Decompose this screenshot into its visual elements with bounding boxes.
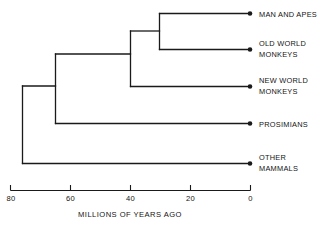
axis-title: MILLIONS OF YEARS AGO — [78, 210, 182, 219]
axis-tick-label-40: 40 — [126, 194, 135, 203]
axis-tick-label-20: 20 — [186, 194, 195, 203]
tip-dot-other-mammals — [248, 161, 253, 166]
tip-dot-prosimians — [248, 121, 253, 126]
axis-tick-label-0: 0 — [248, 194, 252, 203]
tip-dot-new-world-monkeys — [248, 84, 253, 89]
tip-label-new-world-line2: MONKEYS — [259, 87, 298, 96]
tip-label-old-world-line1: OLD WORLD — [259, 39, 306, 48]
tip-dot-man-and-apes — [248, 11, 253, 16]
tip-label-new-world-line1: NEW WORLD — [259, 76, 308, 85]
tip-dots — [248, 11, 253, 166]
axis-tick-label-80: 80 — [7, 194, 16, 203]
tip-label-old-world-line2: MONKEYS — [259, 50, 298, 59]
tip-label-other-line1: OTHER — [259, 153, 286, 162]
tip-label-prosimians: PROSIMIANS — [259, 120, 308, 129]
tip-label-man-and-apes: MAN AND APES — [259, 10, 317, 19]
tip-dot-old-world-monkeys — [248, 47, 253, 52]
tree-branches — [23, 14, 251, 164]
cladogram-figure: MAN AND APES OLD WORLD MONKEYS NEW WORLD… — [0, 0, 325, 229]
axis-tick-label-60: 60 — [66, 194, 75, 203]
time-axis: 80 60 40 20 0 MILLIONS OF YEARS AGO — [7, 185, 253, 219]
primate-cladogram-svg: MAN AND APES OLD WORLD MONKEYS NEW WORLD… — [0, 0, 325, 229]
tip-labels: MAN AND APES OLD WORLD MONKEYS NEW WORLD… — [259, 10, 317, 173]
tip-label-other-line2: MAMMALS — [259, 164, 298, 173]
